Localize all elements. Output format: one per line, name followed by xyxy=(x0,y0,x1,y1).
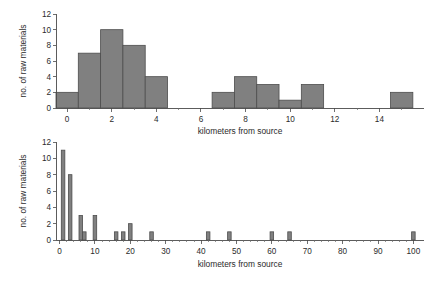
y-tick-label: 8 xyxy=(46,41,51,50)
y-axis-label: no. of raw materials xyxy=(18,154,28,227)
histogram-bar xyxy=(123,45,145,108)
histogram-bar xyxy=(279,100,301,108)
histogram-bar xyxy=(288,232,292,240)
x-tick-label: 10 xyxy=(90,247,100,256)
top-histogram-panel: 02468101202468101214kilometers from sour… xyxy=(0,0,434,140)
x-tick-label: 100 xyxy=(407,247,421,256)
y-tick-label: 0 xyxy=(46,236,51,245)
x-tick-label: 0 xyxy=(65,115,70,124)
histogram-bar xyxy=(301,85,323,109)
y-tick-label: 4 xyxy=(46,73,51,82)
x-tick-label: 60 xyxy=(267,247,277,256)
histogram-bar xyxy=(78,53,100,108)
x-tick-label: 30 xyxy=(161,247,171,256)
x-tick-label: 14 xyxy=(375,115,385,124)
histogram-bar xyxy=(257,85,279,109)
y-tick-label: 4 xyxy=(46,203,51,212)
histogram-bar xyxy=(206,232,210,240)
y-tick-label: 6 xyxy=(46,187,51,196)
x-tick-label: 6 xyxy=(199,115,204,124)
histogram-bar xyxy=(56,92,78,108)
x-tick-label: 10 xyxy=(286,115,296,124)
x-tick-label: 0 xyxy=(57,247,62,256)
histogram-bar xyxy=(101,30,123,108)
histogram-bar xyxy=(114,232,118,240)
histogram-bar xyxy=(150,232,154,240)
y-tick-label: 2 xyxy=(46,220,51,229)
bottom-histogram-panel: 0246810120102030405060708090100kilometer… xyxy=(0,134,434,283)
histogram-bar xyxy=(228,232,232,240)
x-tick-label: 12 xyxy=(330,115,340,124)
x-tick-label: 50 xyxy=(232,247,242,256)
histogram-bar xyxy=(412,232,416,240)
y-axis-label: no. of raw materials xyxy=(18,24,28,97)
histogram-bar xyxy=(83,232,87,240)
x-tick-label: 40 xyxy=(197,247,207,256)
x-axis-label: kilometers from source xyxy=(198,259,283,269)
x-tick-label: 70 xyxy=(303,247,313,256)
histogram-bar xyxy=(61,150,65,240)
histogram-bar xyxy=(68,175,72,240)
y-tick-label: 12 xyxy=(42,10,52,19)
y-tick-label: 8 xyxy=(46,171,51,180)
y-tick-label: 6 xyxy=(46,57,51,66)
x-tick-label: 4 xyxy=(154,115,159,124)
bottom-plot-area: 0246810120102030405060708090100kilometer… xyxy=(18,138,424,269)
x-tick-label: 20 xyxy=(126,247,136,256)
figure-container: 02468101202468101214kilometers from sour… xyxy=(0,0,434,283)
y-tick-label: 2 xyxy=(46,88,51,97)
histogram-bar xyxy=(234,77,256,108)
x-tick-label: 90 xyxy=(373,247,383,256)
histogram-bar xyxy=(212,92,234,108)
top-plot-area: 02468101202468101214kilometers from sour… xyxy=(18,10,424,136)
histogram-bar xyxy=(121,232,125,240)
x-tick-label: 2 xyxy=(109,115,114,124)
histogram-bar xyxy=(129,224,133,240)
y-tick-label: 0 xyxy=(46,104,51,113)
bottom-histogram-svg: 0246810120102030405060708090100kilometer… xyxy=(0,134,434,283)
top-histogram-svg: 02468101202468101214kilometers from sour… xyxy=(0,0,434,140)
histogram-bar xyxy=(391,92,413,108)
histogram-bar xyxy=(93,216,97,241)
histogram-bar xyxy=(270,232,274,240)
x-tick-label: 80 xyxy=(338,247,348,256)
y-tick-label: 12 xyxy=(42,138,52,147)
x-tick-label: 8 xyxy=(243,115,248,124)
histogram-bar xyxy=(145,77,167,108)
y-tick-label: 10 xyxy=(42,26,52,35)
y-tick-label: 10 xyxy=(42,154,52,163)
histogram-bar xyxy=(79,216,83,241)
